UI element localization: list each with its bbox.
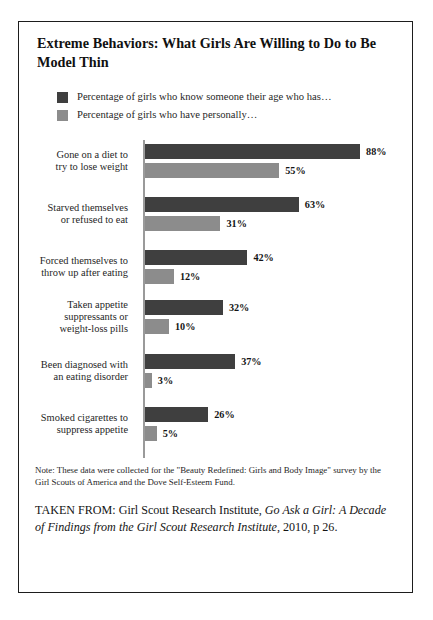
bar-known bbox=[145, 250, 248, 265]
bar-personal bbox=[145, 319, 170, 334]
chart-source: TAKEN FROM: Girl Scout Research Institut… bbox=[35, 502, 396, 535]
bar-row: 26% bbox=[145, 407, 413, 422]
category-label-line: try to lose weight bbox=[8, 161, 128, 173]
legend-item-known: Percentage of girls who know someone the… bbox=[57, 91, 412, 104]
bar-personal bbox=[145, 373, 152, 388]
bar-row: 32% bbox=[145, 300, 413, 315]
category-label: Starved themselvesor refused to eat bbox=[8, 202, 128, 227]
bar-group: Smoked cigarettes tosuppress appetite26%… bbox=[19, 403, 412, 445]
category-label-line: Forced themselves to bbox=[8, 255, 128, 267]
bar-group: Taken appetitesuppressants orweight-loss… bbox=[19, 296, 412, 338]
bar-value-label: 32% bbox=[229, 302, 249, 313]
bar-value-label: 5% bbox=[163, 428, 178, 439]
category-label-line: Starved themselves bbox=[8, 202, 128, 214]
bar-group: Forced themselves tothrow up after eatin… bbox=[19, 246, 412, 288]
bar-value-label: 88% bbox=[366, 146, 386, 157]
bar-row: 3% bbox=[145, 373, 413, 388]
bar-row: 55% bbox=[145, 163, 413, 178]
bar-known bbox=[145, 300, 223, 315]
category-label: Taken appetitesuppressants orweight-loss… bbox=[8, 298, 128, 335]
category-label-line: suppressants or bbox=[8, 311, 128, 323]
category-label: Gone on a diet totry to lose weight bbox=[8, 149, 128, 174]
bar-group: Starved themselvesor refused to eat63%31… bbox=[19, 193, 412, 235]
bar-pair: 88%55% bbox=[145, 140, 413, 182]
bar-known bbox=[145, 197, 299, 212]
legend-swatch-personal-icon bbox=[57, 110, 68, 121]
bar-personal bbox=[145, 269, 174, 284]
chart-legend: Percentage of girls who know someone the… bbox=[57, 91, 412, 121]
category-label-line: Smoked cigarettes to bbox=[8, 412, 128, 424]
bar-personal bbox=[145, 426, 157, 441]
bar-group: Gone on a diet totry to lose weight88%55… bbox=[19, 140, 412, 182]
bar-value-label: 63% bbox=[305, 199, 325, 210]
category-label-line: suppress appetite bbox=[8, 424, 128, 436]
category-label: Been diagnosed withan eating disorder bbox=[8, 359, 128, 384]
legend-label-personal: Percentage of girls who have personally… bbox=[77, 109, 257, 122]
source-suffix: , 2010, p 26. bbox=[277, 520, 337, 534]
bar-known bbox=[145, 144, 361, 159]
bar-personal bbox=[145, 163, 280, 178]
figure-frame: Extreme Behaviors: What Girls Are Willin… bbox=[18, 21, 413, 593]
bar-value-label: 37% bbox=[241, 356, 261, 367]
bar-chart-plot: Gone on a diet totry to lose weight88%55… bbox=[19, 138, 412, 458]
bar-row: 5% bbox=[145, 426, 413, 441]
category-label-line: or refused to eat bbox=[8, 214, 128, 226]
bar-row: 31% bbox=[145, 216, 413, 231]
bar-value-label: 12% bbox=[180, 271, 200, 282]
category-label-line: throw up after eating bbox=[8, 267, 128, 279]
category-label-line: Gone on a diet to bbox=[8, 149, 128, 161]
bar-row: 88% bbox=[145, 144, 413, 159]
bar-value-label: 10% bbox=[175, 321, 195, 332]
bar-row: 10% bbox=[145, 319, 413, 334]
category-label-line: Taken appetite bbox=[8, 298, 128, 310]
chart-note: Note: These data were collected for the … bbox=[35, 464, 396, 489]
category-label: Forced themselves tothrow up after eatin… bbox=[8, 255, 128, 280]
bar-pair: 32%10% bbox=[145, 296, 413, 338]
bar-value-label: 31% bbox=[226, 218, 246, 229]
legend-item-personal: Percentage of girls who have personally… bbox=[57, 109, 412, 122]
bar-row: 12% bbox=[145, 269, 413, 284]
source-prefix: TAKEN FROM: Girl Scout Research Institut… bbox=[35, 503, 262, 517]
bar-value-label: 55% bbox=[285, 165, 305, 176]
page-title: Extreme Behaviors: What Girls Are Willin… bbox=[37, 34, 394, 71]
category-label-line: Been diagnosed with bbox=[8, 359, 128, 371]
bar-pair: 37%3% bbox=[145, 350, 413, 392]
bar-pair: 26%5% bbox=[145, 403, 413, 445]
category-label-line: an eating disorder bbox=[8, 371, 128, 383]
bar-pair: 42%12% bbox=[145, 246, 413, 288]
bar-value-label: 3% bbox=[158, 375, 173, 386]
legend-swatch-known-icon bbox=[57, 92, 68, 103]
bar-row: 37% bbox=[145, 354, 413, 369]
category-label-line: weight-loss pills bbox=[8, 323, 128, 335]
bar-known bbox=[145, 354, 236, 369]
bar-value-label: 42% bbox=[253, 252, 273, 263]
category-label: Smoked cigarettes tosuppress appetite bbox=[8, 412, 128, 437]
bar-pair: 63%31% bbox=[145, 193, 413, 235]
bar-personal bbox=[145, 216, 221, 231]
bar-group: Been diagnosed withan eating disorder37%… bbox=[19, 350, 412, 392]
bar-value-label: 26% bbox=[214, 409, 234, 420]
bar-known bbox=[145, 407, 209, 422]
bar-row: 42% bbox=[145, 250, 413, 265]
legend-label-known: Percentage of girls who know someone the… bbox=[77, 91, 331, 104]
bar-row: 63% bbox=[145, 197, 413, 212]
